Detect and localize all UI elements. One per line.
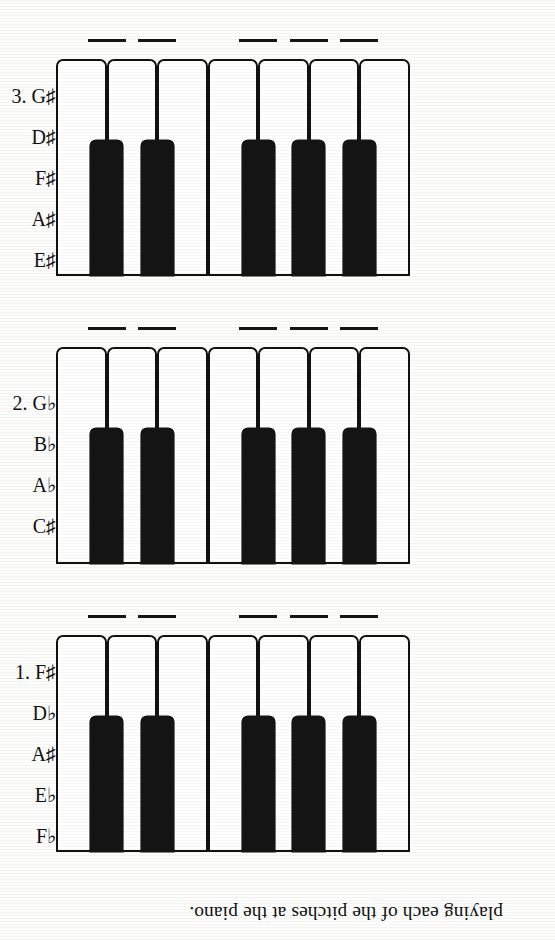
answer-blank[interactable] — [290, 39, 328, 42]
answer-blanks-2[interactable] — [56, 316, 410, 330]
black-key[interactable] — [90, 140, 123, 276]
answer-blank[interactable] — [239, 327, 277, 330]
answer-item: 2. G♭ — [13, 393, 56, 413]
black-key[interactable] — [292, 716, 325, 852]
answer-item: 1. F♯ — [15, 662, 56, 682]
answer-blank[interactable] — [88, 615, 126, 618]
answer-item: C♯ — [33, 516, 56, 536]
black-key[interactable] — [141, 428, 174, 564]
answer-blank[interactable] — [340, 615, 378, 618]
answer-blank[interactable] — [239, 39, 277, 42]
answer-blank[interactable] — [88, 39, 126, 42]
answer-blank[interactable] — [138, 39, 176, 42]
answer-blanks-3[interactable] — [56, 28, 410, 42]
page-caption: playing each of the pitches at the piano… — [83, 902, 503, 924]
answer-item: E♭ — [35, 785, 56, 805]
answer-blank[interactable] — [138, 615, 176, 618]
black-key[interactable] — [90, 428, 123, 564]
answer-blank[interactable] — [239, 615, 277, 618]
answer-blank[interactable] — [290, 615, 328, 618]
answer-blank[interactable] — [340, 39, 378, 42]
piano-keyboard-3[interactable] — [56, 59, 410, 276]
black-key[interactable] — [292, 140, 325, 276]
answer-blank[interactable] — [138, 327, 176, 330]
black-key[interactable] — [141, 140, 174, 276]
answer-list-2: C♯ A♭ B♭ 2. G♭ — [0, 393, 56, 536]
worksheet-page: playing each of the pitches at the piano… — [0, 0, 555, 940]
answer-item: F♯ — [35, 168, 56, 188]
black-key[interactable] — [292, 428, 325, 564]
answer-item: D♯ — [32, 127, 56, 147]
answer-list-1: F♭ E♭ A♯ D♭ 1. F♯ — [0, 662, 56, 846]
answer-blanks-1[interactable] — [56, 604, 410, 618]
answer-item: 3. G♯ — [12, 86, 56, 106]
black-key[interactable] — [343, 428, 376, 564]
piano-keyboard-2[interactable] — [56, 347, 410, 564]
answer-item: A♯ — [32, 209, 56, 229]
black-key[interactable] — [141, 716, 174, 852]
keyboard-keys-2 — [56, 347, 410, 564]
black-key[interactable] — [242, 428, 275, 564]
black-key[interactable] — [242, 140, 275, 276]
answer-blank[interactable] — [290, 327, 328, 330]
keyboard-keys-3 — [56, 59, 410, 276]
answer-blank[interactable] — [340, 327, 378, 330]
answer-blank[interactable] — [88, 327, 126, 330]
answer-item: B♭ — [34, 434, 56, 454]
answer-item: F♭ — [36, 826, 56, 846]
black-key[interactable] — [90, 716, 123, 852]
black-key[interactable] — [242, 716, 275, 852]
black-key[interactable] — [343, 140, 376, 276]
black-key[interactable] — [343, 716, 376, 852]
answer-item: E♯ — [34, 250, 56, 270]
piano-keyboard-1[interactable] — [56, 635, 410, 852]
answer-item: D♭ — [33, 703, 56, 723]
answer-item: A♭ — [33, 475, 56, 495]
answer-item: A♯ — [32, 744, 56, 764]
keyboard-keys-1 — [56, 635, 410, 852]
answer-list-3: E♯ A♯ F♯ D♯ 3. G♯ — [0, 86, 56, 270]
